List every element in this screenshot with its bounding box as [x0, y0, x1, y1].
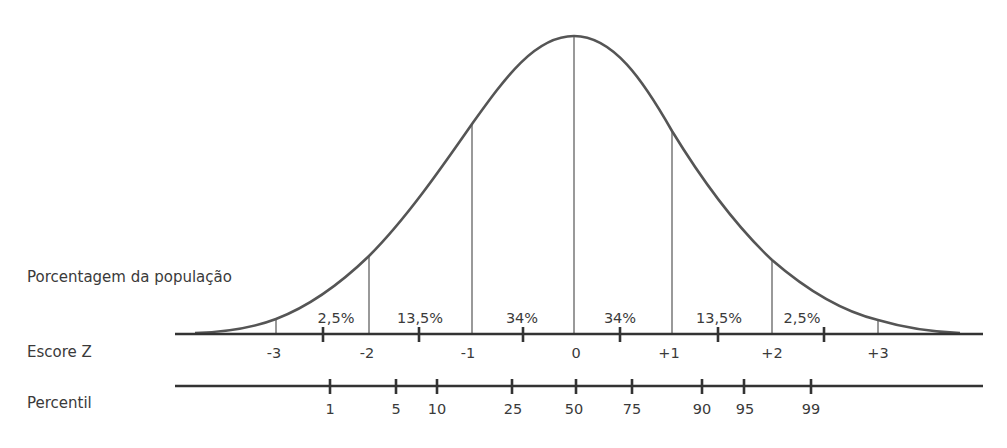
svg-text:90: 90	[693, 401, 711, 417]
svg-text:-2: -2	[360, 345, 374, 361]
svg-text:34%: 34%	[506, 310, 538, 326]
svg-text:25: 25	[504, 401, 522, 417]
svg-text:10: 10	[428, 401, 446, 417]
svg-text:-1: -1	[461, 345, 475, 361]
svg-text:2,5%: 2,5%	[318, 310, 355, 326]
z-score-values: -3 -2 -1 0 +1 +2 +3	[267, 345, 889, 361]
svg-text:+1: +1	[658, 345, 679, 361]
percentile-label: Percentil	[27, 394, 92, 412]
svg-text:13,5%: 13,5%	[397, 310, 443, 326]
z-score-label: Escore Z	[27, 343, 92, 361]
svg-text:+3: +3	[867, 345, 888, 361]
percentile-values: 1 5 10 25 50 75 90 95 99	[325, 401, 820, 417]
svg-text:2,5%: 2,5%	[784, 310, 821, 326]
svg-text:13,5%: 13,5%	[696, 310, 742, 326]
population-percentage-label: Porcentagem da população	[27, 268, 232, 286]
population-percentages: 2,5% 13,5% 34% 34% 13,5% 2,5%	[318, 310, 821, 326]
normal-distribution-diagram: Porcentagem da população Escore Z Percen…	[0, 0, 1007, 448]
svg-text:1: 1	[325, 401, 334, 417]
svg-text:+2: +2	[761, 345, 782, 361]
svg-text:34%: 34%	[604, 310, 636, 326]
svg-text:5: 5	[391, 401, 400, 417]
svg-text:50: 50	[565, 401, 583, 417]
bell-curve	[195, 36, 960, 333]
svg-text:95: 95	[736, 401, 754, 417]
svg-text:99: 99	[802, 401, 820, 417]
svg-text:75: 75	[623, 401, 641, 417]
svg-text:0: 0	[571, 345, 580, 361]
svg-text:-3: -3	[267, 345, 281, 361]
